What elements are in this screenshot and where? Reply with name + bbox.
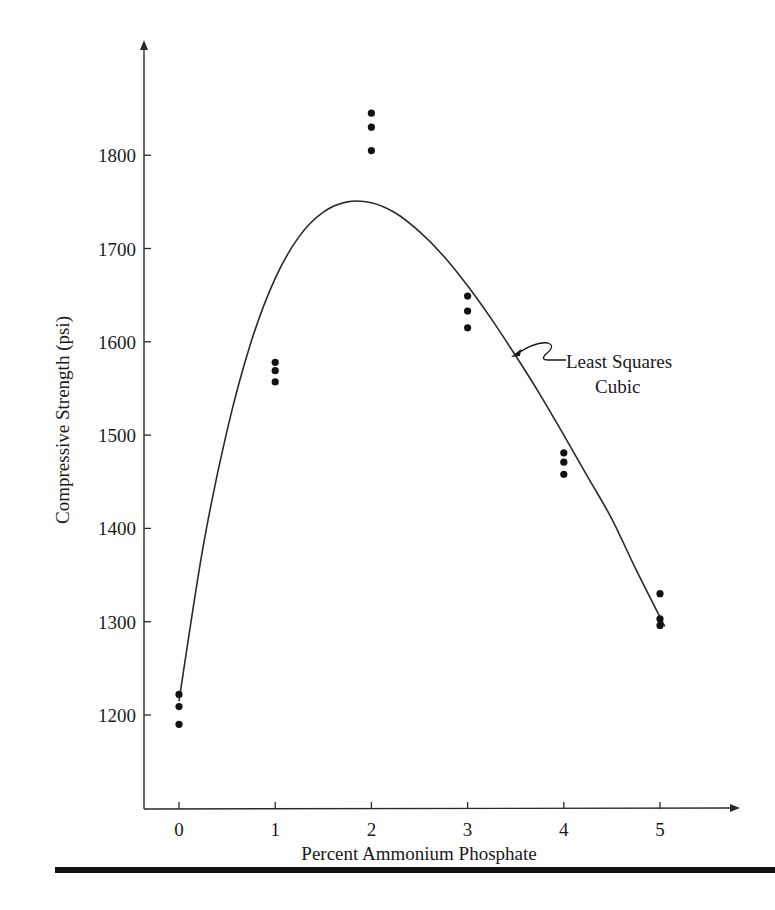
data-point — [272, 359, 279, 366]
scatter-chart: 1200130014001500160017001800 012345 Comp… — [0, 0, 775, 910]
data-point — [175, 691, 182, 698]
data-point — [560, 471, 567, 478]
data-point — [175, 703, 182, 710]
data-point — [368, 147, 375, 154]
least-squares-cubic-curve — [179, 201, 665, 701]
data-point — [368, 110, 375, 117]
data-points — [175, 110, 663, 728]
y-tick-label: 1700 — [98, 239, 136, 260]
y-tick-label: 1300 — [98, 612, 136, 633]
x-tick-label: 1 — [270, 819, 280, 840]
y-tick-label: 1400 — [98, 518, 136, 539]
y-axis-label: Compressive Strength (psi) — [52, 316, 74, 524]
x-tick-label: 0 — [174, 819, 184, 840]
data-point — [656, 615, 663, 622]
x-tick-label: 3 — [463, 819, 473, 840]
annotation-arrow-line — [515, 343, 566, 360]
y-axis-arrow-icon — [140, 40, 148, 50]
data-point — [464, 324, 471, 331]
data-point — [560, 449, 567, 456]
data-point — [368, 124, 375, 131]
data-point — [656, 622, 663, 629]
data-point — [175, 721, 182, 728]
x-tick-label: 2 — [367, 819, 377, 840]
data-point — [656, 590, 663, 597]
y-tick-label: 1600 — [98, 332, 136, 353]
data-point — [464, 307, 471, 314]
annotation-text-line-2: Cubic — [595, 376, 640, 397]
data-point — [464, 292, 471, 299]
curve-annotation: Least Squares Cubic — [511, 343, 672, 397]
y-tick-label: 1200 — [98, 705, 136, 726]
page-bottom-rule — [55, 867, 775, 873]
y-tick-label: 1500 — [98, 425, 136, 446]
x-axis-arrow-icon — [730, 804, 740, 812]
x-axis-label: Percent Ammonium Phosphate — [301, 843, 536, 864]
data-point — [560, 459, 567, 466]
x-tick-label: 4 — [559, 819, 569, 840]
data-point — [272, 378, 279, 385]
x-axis-line — [144, 808, 732, 809]
annotation-text-line-1: Least Squares — [566, 351, 672, 372]
y-tick-label: 1800 — [98, 145, 136, 166]
x-tick-label: 5 — [655, 819, 665, 840]
data-point — [272, 367, 279, 374]
y-axis-ticks: 1200130014001500160017001800 — [98, 145, 151, 726]
axes — [140, 40, 740, 812]
